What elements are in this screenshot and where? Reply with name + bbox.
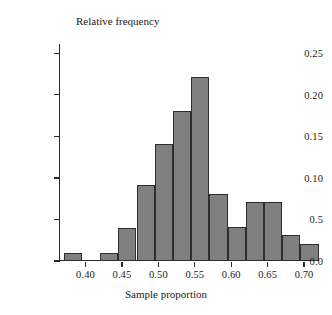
histogram-bar [246,202,264,261]
histogram-bar [64,253,82,261]
y-tick-label: 0.25 [304,48,323,59]
histogram-bar [173,111,191,261]
x-axis-title: Sample proportion [0,288,332,300]
y-tick-label: 0.5 [310,214,323,225]
x-tick-mark [158,262,159,267]
histogram-bar [209,194,227,261]
y-tick-mark [54,53,60,54]
histogram-bar [155,144,173,261]
y-axis-title: Relative frequency [76,15,159,27]
y-tick-label: 0.20 [304,89,323,100]
x-tick-mark [267,262,268,267]
x-tick-label: 0.50 [149,269,168,280]
x-tick-mark [121,262,122,267]
x-tick-mark [303,262,304,267]
histogram-figure: Relative frequency 0.00.50.100.150.200.2… [0,0,332,315]
x-tick-label: 0.40 [76,269,95,280]
x-tick-label: 0.60 [222,269,241,280]
y-tick-label: 0.0 [310,256,323,267]
histogram-bar [118,228,136,261]
histogram-bar [282,235,300,261]
histogram-bar [137,185,155,261]
y-tick-mark [54,219,60,220]
y-tick-mark [54,136,60,137]
plot-area [60,45,315,261]
y-tick-label: 0.10 [304,172,323,183]
histogram-bar [264,202,282,261]
x-tick-label: 0.65 [258,269,277,280]
x-tick-label: 0.55 [185,269,204,280]
x-tick-label: 0.45 [113,269,132,280]
x-tick-mark [85,262,86,267]
histogram-bar [228,227,246,261]
histogram-bar [100,253,118,261]
x-tick-mark [231,262,232,267]
x-tick-mark [194,262,195,267]
y-tick-mark [54,177,60,178]
x-tick-label: 0.70 [295,269,314,280]
y-tick-mark [54,94,60,95]
y-tick-label: 0.15 [304,131,323,142]
y-tick-mark [54,260,60,261]
histogram-bar [191,77,209,261]
